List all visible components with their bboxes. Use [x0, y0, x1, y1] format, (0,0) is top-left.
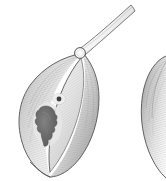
- inclusion: [33, 102, 62, 146]
- pore-center: [57, 97, 62, 102]
- apical-ring: [75, 48, 86, 59]
- specimen-illustration-canvas: [0, 0, 166, 181]
- pore: [53, 93, 66, 104]
- figure-root: Lanceolate specimen illustration Two sti…: [0, 0, 166, 181]
